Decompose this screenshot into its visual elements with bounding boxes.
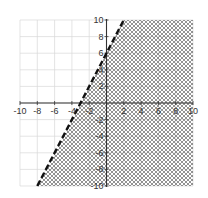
- x-tick-label: 8: [173, 106, 178, 116]
- y-tick-label: 2: [98, 81, 103, 91]
- x-tick-label: 10: [188, 106, 198, 116]
- x-tick-label: -2: [85, 106, 93, 116]
- x-tick-label: -10: [13, 106, 26, 116]
- y-tick-label: 8: [98, 32, 103, 42]
- x-tick-label: -8: [33, 106, 41, 116]
- x-tick-label: 6: [156, 106, 161, 116]
- x-tick-label: -6: [51, 106, 59, 116]
- y-tick-label: -8: [95, 164, 103, 174]
- x-tick-label: 2: [121, 106, 126, 116]
- y-tick-label: 6: [98, 48, 103, 58]
- y-tick-label: -10: [90, 181, 103, 191]
- coordinate-graph: -10-8-6-4-2246810108642-2-4-6-8-10: [0, 0, 208, 198]
- y-tick-label: -2: [95, 115, 103, 125]
- x-tick-label: 4: [139, 106, 144, 116]
- y-tick-label: -4: [95, 131, 103, 141]
- x-tick-label: -4: [68, 106, 76, 116]
- y-tick-label: 4: [98, 65, 103, 75]
- y-tick-label: -6: [95, 148, 103, 158]
- y-tick-label: 10: [93, 15, 103, 25]
